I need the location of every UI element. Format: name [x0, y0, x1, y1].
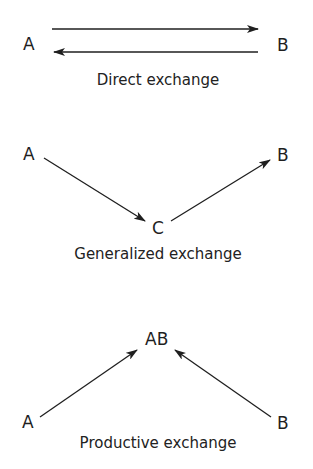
- arrow-a-to-c: [44, 158, 145, 221]
- caption-generalized-exchange: Generalized exchange: [74, 245, 241, 263]
- direct-exchange-diagram: A B Direct exchange: [23, 29, 289, 89]
- node-b: B: [277, 413, 289, 433]
- node-c: C: [152, 218, 164, 238]
- node-ab: AB: [145, 329, 168, 349]
- caption-productive-exchange: Productive exchange: [80, 434, 237, 452]
- exchange-diagrams: A B Direct exchange A C B Generalized ex…: [0, 0, 313, 469]
- caption-direct-exchange: Direct exchange: [97, 71, 219, 89]
- node-a: A: [23, 34, 35, 54]
- arrow-c-to-b: [171, 160, 270, 221]
- arrow-a-to-ab: [40, 350, 137, 417]
- node-b: B: [277, 145, 289, 165]
- node-a: A: [22, 412, 34, 432]
- node-a: A: [23, 144, 35, 164]
- node-b: B: [277, 35, 289, 55]
- productive-exchange-diagram: AB A B Productive exchange: [22, 329, 289, 452]
- arrow-b-to-ab: [175, 350, 271, 417]
- generalized-exchange-diagram: A C B Generalized exchange: [23, 144, 289, 263]
